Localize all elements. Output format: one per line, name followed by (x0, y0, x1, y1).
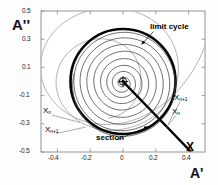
x-axis-label: A' (190, 165, 203, 181)
y-tick-label-1: 0.3 (22, 35, 30, 42)
x-tick-label-2: 0 (120, 154, 123, 161)
y-tick-label-3: -0.1 (19, 91, 29, 98)
limit-cycle-phase-portrait: A'' A' 0.5 0.3 0.1 -0.1 -0.3 -0.5 -0.4 -… (0, 0, 218, 185)
x-n1-right-label: Xn+1 (174, 93, 187, 102)
x-n1-left-sub: n+1 (50, 129, 58, 134)
x-tick-label-4: 0.4 (182, 154, 190, 161)
x-n-right-sub: n (177, 111, 180, 116)
x-n-right-label: Xn (172, 107, 180, 116)
x-tick-label-1: -0.2 (81, 154, 91, 161)
section-label: section (96, 133, 124, 142)
x-n-left-label: Xn (43, 106, 51, 115)
x-n-left-sub: n (48, 110, 51, 115)
y-axis-label: A'' (12, 16, 30, 33)
x-tick-label-3: 0.2 (149, 154, 157, 161)
x-n1-left-label: Xn+1 (45, 125, 58, 134)
y-tick-label-5: -0.5 (19, 147, 29, 154)
x-n1-right-sub: n+1 (179, 97, 187, 102)
x-tick-label-0: -0.4 (48, 154, 58, 161)
limit-cycle-label: limit cycle (150, 22, 189, 31)
section-line-label: X (186, 140, 194, 154)
y-tick-label-0: 0.5 (22, 7, 30, 14)
y-tick-label-2: 0.1 (22, 63, 30, 70)
y-tick-label-4: -0.3 (19, 119, 29, 126)
